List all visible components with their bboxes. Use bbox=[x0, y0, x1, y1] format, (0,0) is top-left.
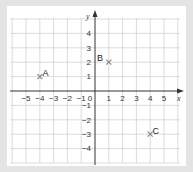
x-tick: 1 bbox=[107, 94, 112, 103]
y-tick: 3 bbox=[87, 44, 92, 53]
x-tick: −3 bbox=[49, 94, 59, 103]
x-tick: 2 bbox=[120, 94, 125, 103]
x-axis-label: x bbox=[176, 94, 181, 103]
x-tick: −5 bbox=[21, 94, 31, 103]
point-b-label: B bbox=[97, 53, 103, 63]
point-c: C bbox=[148, 126, 160, 137]
x-tick: −2 bbox=[63, 94, 73, 103]
x-tick: −4 bbox=[35, 94, 45, 103]
x-tick: 4 bbox=[148, 94, 153, 103]
y-tick: −3 bbox=[82, 130, 92, 139]
y-tick: 1 bbox=[87, 72, 92, 81]
x-tick-labels: −5 −4 −3 −2 −1 0 1 2 3 4 5 bbox=[21, 94, 166, 103]
y-tick: 2 bbox=[87, 58, 92, 67]
y-tick: 4 bbox=[87, 29, 92, 38]
point-a: A bbox=[37, 68, 48, 79]
coordinate-plane: x y −5 −4 −3 −2 −1 0 1 2 3 4 5 4 3 2 1 −… bbox=[0, 0, 193, 172]
y-tick: −1 bbox=[82, 101, 92, 110]
x-axis-arrow-icon bbox=[177, 89, 184, 94]
y-tick: −4 bbox=[82, 144, 92, 153]
point-a-label: A bbox=[43, 68, 49, 78]
point-c-label: C bbox=[153, 126, 160, 136]
x-tick: 3 bbox=[134, 94, 139, 103]
y-axis-arrow-icon bbox=[93, 10, 98, 17]
y-tick: −2 bbox=[82, 116, 92, 125]
x-tick: 5 bbox=[162, 94, 167, 103]
y-axis-label: y bbox=[85, 12, 90, 21]
